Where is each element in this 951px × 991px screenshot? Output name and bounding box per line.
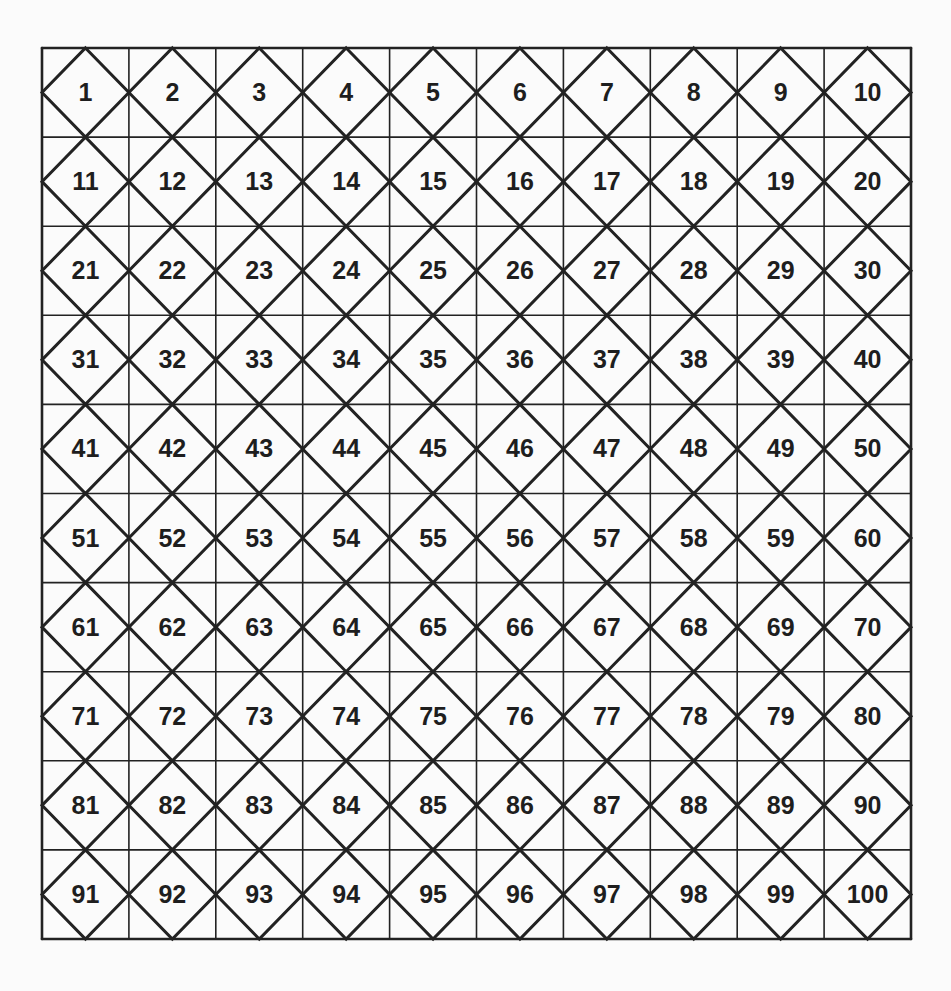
number-cell: 39 [737,315,824,404]
number-cell: 63 [216,583,303,672]
number-cell: 94 [303,850,390,939]
number-cell: 89 [737,761,824,850]
number-cell: 43 [216,404,303,493]
number-cell: 24 [303,226,390,315]
number-cell: 8 [650,48,737,137]
number-cell: 22 [129,226,216,315]
number-cell: 38 [650,315,737,404]
number-cell: 93 [216,850,303,939]
number-cell: 80 [824,672,911,761]
number-cell: 25 [390,226,477,315]
hundreds-chart: 1234567891011121314151617181920212223242… [42,48,911,939]
number-cell: 66 [477,583,564,672]
number-cell: 61 [42,583,129,672]
number-cell: 31 [42,315,129,404]
number-cell: 88 [650,761,737,850]
number-cell: 2 [129,48,216,137]
number-cell: 28 [650,226,737,315]
number-cell: 60 [824,493,911,582]
number-cell: 54 [303,493,390,582]
number-cell: 35 [390,315,477,404]
number-cell: 18 [650,137,737,226]
number-cell: 5 [390,48,477,137]
number-cell: 67 [563,583,650,672]
number-cell: 100 [824,850,911,939]
number-cell: 52 [129,493,216,582]
number-cell: 26 [477,226,564,315]
number-cell: 82 [129,761,216,850]
number-cell: 50 [824,404,911,493]
number-cell: 7 [563,48,650,137]
number-cell: 14 [303,137,390,226]
number-cell: 32 [129,315,216,404]
number-cell: 9 [737,48,824,137]
number-cell: 98 [650,850,737,939]
number-cell: 83 [216,761,303,850]
number-cell: 13 [216,137,303,226]
number-cell: 92 [129,850,216,939]
number-cell: 51 [42,493,129,582]
number-cell: 99 [737,850,824,939]
number-cell: 96 [477,850,564,939]
number-cell: 4 [303,48,390,137]
number-cell: 42 [129,404,216,493]
number-cell: 85 [390,761,477,850]
number-cell: 59 [737,493,824,582]
number-cell: 6 [477,48,564,137]
number-cell: 10 [824,48,911,137]
number-cell: 97 [563,850,650,939]
number-cell: 64 [303,583,390,672]
number-cell: 19 [737,137,824,226]
number-cell: 16 [477,137,564,226]
number-cell: 1 [42,48,129,137]
number-cell: 37 [563,315,650,404]
number-cell: 46 [477,404,564,493]
number-cell: 71 [42,672,129,761]
number-cell: 23 [216,226,303,315]
number-cell: 12 [129,137,216,226]
number-cell: 27 [563,226,650,315]
number-cell: 48 [650,404,737,493]
number-cell: 68 [650,583,737,672]
number-cell: 78 [650,672,737,761]
number-cell: 58 [650,493,737,582]
number-cell: 3 [216,48,303,137]
number-cell: 81 [42,761,129,850]
number-cell: 74 [303,672,390,761]
number-cell: 84 [303,761,390,850]
number-cell: 49 [737,404,824,493]
number-cell: 56 [477,493,564,582]
number-cell: 95 [390,850,477,939]
number-cells: 1234567891011121314151617181920212223242… [42,48,911,939]
number-cell: 15 [390,137,477,226]
number-cell: 57 [563,493,650,582]
number-cell: 47 [563,404,650,493]
number-cell: 65 [390,583,477,672]
number-cell: 41 [42,404,129,493]
number-cell: 45 [390,404,477,493]
number-cell: 21 [42,226,129,315]
number-cell: 55 [390,493,477,582]
number-cell: 79 [737,672,824,761]
number-cell: 72 [129,672,216,761]
number-cell: 20 [824,137,911,226]
number-cell: 40 [824,315,911,404]
number-cell: 90 [824,761,911,850]
number-cell: 33 [216,315,303,404]
number-cell: 77 [563,672,650,761]
number-cell: 44 [303,404,390,493]
number-cell: 76 [477,672,564,761]
number-cell: 53 [216,493,303,582]
number-cell: 34 [303,315,390,404]
number-cell: 69 [737,583,824,672]
number-cell: 91 [42,850,129,939]
number-cell: 36 [477,315,564,404]
number-cell: 62 [129,583,216,672]
number-cell: 11 [42,137,129,226]
number-cell: 70 [824,583,911,672]
number-cell: 29 [737,226,824,315]
number-cell: 30 [824,226,911,315]
number-cell: 75 [390,672,477,761]
number-cell: 73 [216,672,303,761]
number-cell: 87 [563,761,650,850]
